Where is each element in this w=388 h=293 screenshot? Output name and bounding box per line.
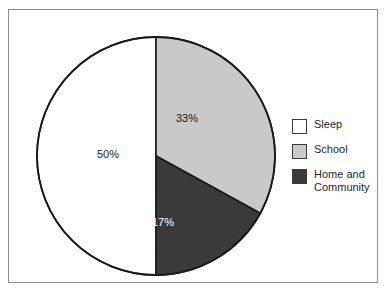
legend-label-school: School [314, 143, 348, 156]
legend: Sleep School Home and Community [292, 118, 388, 193]
pie-label-home-and-community: 17% [152, 216, 174, 228]
pie-chart-svg: 50% 33% 17% [36, 36, 276, 276]
legend-label-home-and-community: Home and Community [314, 168, 370, 193]
pie-label-school: 33% [176, 112, 198, 124]
pie-label-sleep: 50% [97, 148, 119, 160]
legend-swatch-sleep [292, 119, 307, 134]
legend-item-sleep[interactable]: Sleep [292, 118, 388, 134]
figure-canvas: 50% 33% 17% Sleep School Home and Commun… [0, 0, 388, 293]
legend-label-sleep: Sleep [314, 118, 342, 131]
pie-chart: 50% 33% 17% [36, 36, 276, 276]
chart-frame-border: 50% 33% 17% Sleep School Home and Commun… [8, 9, 378, 283]
legend-item-home-and-community[interactable]: Home and Community [292, 168, 388, 193]
legend-item-school[interactable]: School [292, 143, 388, 159]
legend-swatch-home-and-community [292, 169, 307, 184]
legend-swatch-school [292, 144, 307, 159]
